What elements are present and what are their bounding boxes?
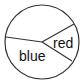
slice-label-blue: blue	[19, 48, 46, 64]
slice-label-red: red	[53, 35, 73, 51]
slice-divider-left	[6, 37, 42, 42]
pie-chart: red blue	[0, 0, 84, 84]
